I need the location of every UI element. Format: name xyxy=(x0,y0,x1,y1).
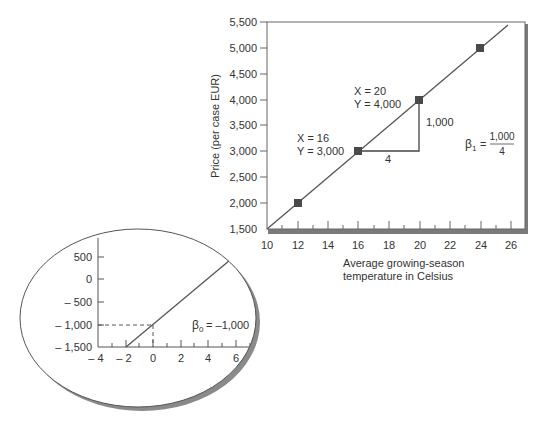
x-tick-label: 24 xyxy=(475,239,487,251)
inset-x-tick-label: 2 xyxy=(178,352,184,364)
inset-y-tick-label: – 1,000 xyxy=(55,319,92,331)
main-chart: 1,500 2,000 2,500 3,000 3,500 4,000 4,50… xyxy=(209,16,528,282)
frame-shadow-bottom xyxy=(268,229,528,234)
annotation-y4000: Y = 4,000 xyxy=(354,98,401,110)
x-tick-label: 26 xyxy=(505,239,517,251)
x-tick-label: 10 xyxy=(261,239,273,251)
run-label: 4 xyxy=(385,153,391,165)
y-axis-title: Price (per case EUR) xyxy=(209,74,221,178)
y-axis-ticks xyxy=(260,22,267,203)
y-tick-label: 5,000 xyxy=(229,42,257,54)
y-tick-label: 5,500 xyxy=(229,16,257,28)
inset-chart: 500 0 – 500 – 1,000 – 1,500 – 4 – 2 0 2 … xyxy=(20,229,260,411)
beta1-denominator: 4 xyxy=(499,146,505,157)
y-tick-label: 3,000 xyxy=(229,145,257,157)
chart-canvas: 1,500 2,000 2,500 3,000 3,500 4,000 4,50… xyxy=(0,0,550,427)
data-point-12 xyxy=(294,199,302,207)
x-tick-label: 16 xyxy=(352,239,364,251)
beta0-symbol: β xyxy=(192,318,199,332)
inset-ellipse xyxy=(20,229,256,407)
annotation-y3000: Y = 3,000 xyxy=(297,145,344,157)
inset-x-tick-label: – 4 xyxy=(88,352,103,364)
y-tick-label: 3,500 xyxy=(229,119,257,131)
x-tick-label: 18 xyxy=(383,239,395,251)
x-axis-labels: 10 12 14 16 18 20 22 24 26 xyxy=(261,239,517,251)
x-tick-label: 20 xyxy=(414,239,426,251)
x-axis-title-line2: temperature in Celsius xyxy=(343,270,454,282)
data-point-16 xyxy=(354,147,362,155)
y-tick-label: 1,500 xyxy=(229,223,257,235)
inset-x-tick-label: 0 xyxy=(150,352,156,364)
beta1-equals: = xyxy=(480,138,486,150)
x-tick-label: 12 xyxy=(292,239,304,251)
inset-x-tick-label: 6 xyxy=(233,352,239,364)
inset-y-tick-label: 0 xyxy=(86,273,92,285)
inset-x-tick-label: 4 xyxy=(205,352,211,364)
annotation-x16: X = 16 xyxy=(297,132,329,144)
inset-y-tick-label: – 1,500 xyxy=(55,341,92,353)
beta1-symbol: β xyxy=(465,137,472,151)
annotation-x20: X = 20 xyxy=(354,85,386,97)
beta0-value: = –1,000 xyxy=(203,319,249,331)
x-tick-label: 22 xyxy=(444,239,456,251)
rise-label: 1,000 xyxy=(426,116,454,128)
beta1-numerator: 1,000 xyxy=(489,131,514,142)
y-tick-label: 4,000 xyxy=(229,94,257,106)
data-point-20 xyxy=(415,96,423,104)
inset-y-tick-label: – 500 xyxy=(64,296,92,308)
y-tick-label: 2,000 xyxy=(229,197,257,209)
x-axis-title-line1: Average growing-season xyxy=(343,257,464,269)
y-tick-label: 2,500 xyxy=(229,171,257,183)
y-tick-label: 4,500 xyxy=(229,68,257,80)
x-tick-label: 14 xyxy=(322,239,334,251)
data-point-24 xyxy=(476,44,484,52)
beta1-subscript: 1 xyxy=(472,144,477,153)
plot-frame xyxy=(267,22,525,229)
inset-x-tick-label: – 2 xyxy=(116,352,131,364)
y-axis-labels: 1,500 2,000 2,500 3,000 3,500 4,000 4,50… xyxy=(229,16,257,235)
inset-y-tick-label: 500 xyxy=(74,251,92,263)
